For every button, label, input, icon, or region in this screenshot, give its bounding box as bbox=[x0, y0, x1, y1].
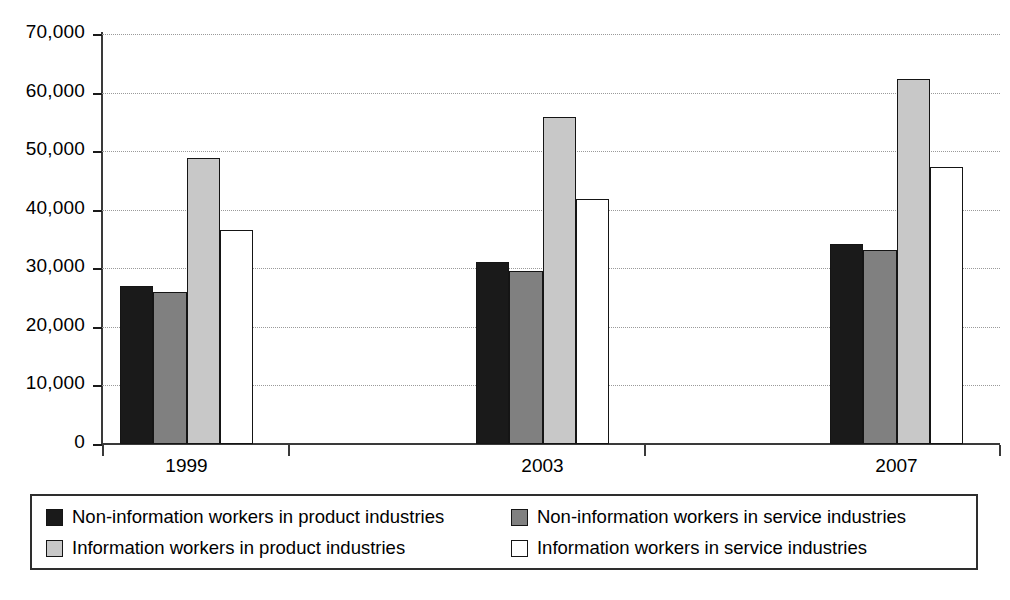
y-tick-mark bbox=[93, 385, 102, 387]
bar bbox=[220, 230, 253, 444]
x-tick-label: 2007 bbox=[837, 455, 957, 477]
y-tick-label: 20,000 bbox=[0, 314, 85, 336]
y-tick-mark bbox=[93, 268, 102, 270]
legend-label: Information workers in service industrie… bbox=[537, 539, 867, 558]
y-tick-label: 30,000 bbox=[0, 255, 85, 277]
bar bbox=[509, 271, 542, 444]
chart-page: 010,00020,00030,00040,00050,00060,00070,… bbox=[0, 0, 1010, 600]
bar bbox=[897, 79, 930, 444]
bar bbox=[153, 292, 186, 444]
legend-item[interactable]: Information workers in product industrie… bbox=[46, 533, 511, 564]
chart-legend: Non-information workers in product indus… bbox=[30, 494, 978, 570]
y-tick-mark bbox=[93, 444, 102, 446]
legend-swatch-icon bbox=[46, 540, 63, 557]
y-tick-label: 0 bbox=[0, 431, 85, 453]
legend-swatch-icon bbox=[511, 540, 528, 557]
bar bbox=[120, 286, 153, 444]
legend-label: Information workers in product industrie… bbox=[72, 539, 405, 558]
y-tick-mark bbox=[93, 151, 102, 153]
x-tick-mark bbox=[999, 445, 1001, 456]
x-tick-label: 2003 bbox=[483, 455, 603, 477]
legend-item[interactable]: Non-information workers in product indus… bbox=[46, 502, 511, 533]
legend-label: Non-information workers in product indus… bbox=[72, 508, 444, 527]
legend-label: Non-information workers in service indus… bbox=[537, 508, 906, 527]
bar bbox=[576, 199, 609, 444]
bar bbox=[476, 262, 509, 444]
bar-chart: 010,00020,00030,00040,00050,00060,00070,… bbox=[0, 0, 1010, 485]
bar bbox=[187, 158, 220, 444]
bar bbox=[543, 117, 576, 444]
x-tick-mark bbox=[288, 445, 290, 456]
x-tick-label: 1999 bbox=[127, 455, 247, 477]
y-tick-label: 50,000 bbox=[0, 138, 85, 160]
legend-row: Information workers in product industrie… bbox=[46, 533, 966, 564]
y-tick-mark bbox=[93, 34, 102, 36]
legend-row: Non-information workers in product indus… bbox=[46, 502, 966, 533]
y-tick-mark bbox=[93, 93, 102, 95]
plot-area bbox=[102, 34, 1000, 444]
y-tick-label: 60,000 bbox=[0, 80, 85, 102]
x-tick-mark bbox=[644, 445, 646, 456]
legend-item[interactable]: Non-information workers in service indus… bbox=[511, 502, 966, 533]
legend-item[interactable]: Information workers in service industrie… bbox=[511, 533, 966, 564]
y-tick-mark bbox=[93, 327, 102, 329]
y-tick-mark bbox=[93, 210, 102, 212]
bar bbox=[930, 167, 963, 444]
y-tick-label: 10,000 bbox=[0, 372, 85, 394]
bar bbox=[830, 244, 863, 444]
y-tick-label: 70,000 bbox=[0, 21, 85, 43]
legend-swatch-icon bbox=[46, 509, 63, 526]
x-tick-mark bbox=[102, 445, 104, 456]
y-tick-label: 40,000 bbox=[0, 197, 85, 219]
legend-swatch-icon bbox=[511, 509, 528, 526]
bar bbox=[863, 250, 896, 444]
